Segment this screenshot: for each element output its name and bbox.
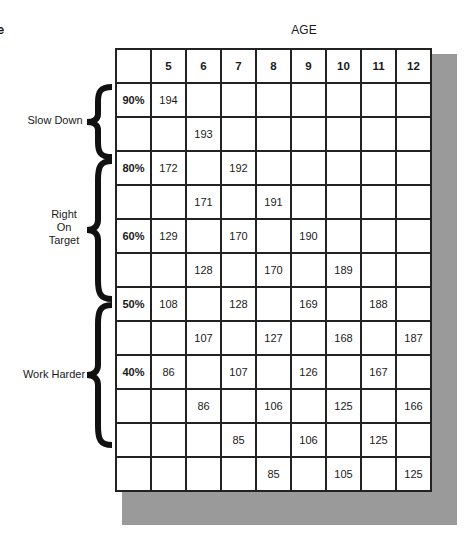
age-header-cell: 11 xyxy=(361,49,396,83)
score-cell xyxy=(396,151,431,185)
score-cell: 166 xyxy=(396,389,431,423)
score-cell xyxy=(326,185,361,219)
score-cell: 126 xyxy=(291,355,326,389)
table-row: 80%172192 xyxy=(116,151,431,185)
table-row: 85106125 xyxy=(116,423,431,457)
right-on-target-label: Right On Target xyxy=(44,208,84,247)
score-cell xyxy=(186,457,221,491)
percentile-cell xyxy=(116,389,151,423)
percentile-cell: 40% xyxy=(116,355,151,389)
score-cell xyxy=(361,151,396,185)
score-cell xyxy=(361,457,396,491)
right-on-target-line: Right xyxy=(44,208,84,221)
percentile-cell xyxy=(116,253,151,287)
table-row: 90%194 xyxy=(116,83,431,117)
score-cell: 170 xyxy=(221,219,256,253)
slow-down-brace-icon xyxy=(84,84,116,160)
score-cell xyxy=(151,389,186,423)
score-cell xyxy=(221,83,256,117)
score-cell xyxy=(291,117,326,151)
score-cell xyxy=(186,151,221,185)
score-cell: 171 xyxy=(186,185,221,219)
cropped-caption-fragment: e xyxy=(0,22,4,37)
score-cell: 106 xyxy=(256,389,291,423)
score-cell xyxy=(326,355,361,389)
score-cell: 125 xyxy=(396,457,431,491)
score-cell: 128 xyxy=(186,253,221,287)
score-cell: 167 xyxy=(361,355,396,389)
score-cell xyxy=(151,321,186,355)
header-row: 5 6 7 8 9 10 11 12 xyxy=(116,49,431,83)
age-header-cell: 6 xyxy=(186,49,221,83)
age-axis-label: AGE xyxy=(269,23,339,37)
score-cell xyxy=(221,321,256,355)
score-cell xyxy=(151,457,186,491)
score-cell: 172 xyxy=(151,151,186,185)
score-cell xyxy=(326,83,361,117)
score-cell xyxy=(396,117,431,151)
age-header-cell: 9 xyxy=(291,49,326,83)
score-cell xyxy=(256,83,291,117)
score-cell xyxy=(291,321,326,355)
score-cell xyxy=(256,287,291,321)
table-row: 107127168187 xyxy=(116,321,431,355)
score-cell: 125 xyxy=(326,389,361,423)
age-header-cell: 7 xyxy=(221,49,256,83)
score-cell: 194 xyxy=(151,83,186,117)
table-row: 50%108128169188 xyxy=(116,287,431,321)
score-cell xyxy=(291,389,326,423)
header-corner-cell xyxy=(116,49,151,83)
age-header-cell: 8 xyxy=(256,49,291,83)
score-cell xyxy=(151,185,186,219)
table-row: 60%129170190 xyxy=(116,219,431,253)
score-cell: 106 xyxy=(291,423,326,457)
table-row: 193 xyxy=(116,117,431,151)
score-cell: 190 xyxy=(291,219,326,253)
score-cell xyxy=(396,423,431,457)
score-cell xyxy=(221,185,256,219)
score-cell xyxy=(291,151,326,185)
percentile-table: 5 6 7 8 9 10 11 12 90%19419380%172192171… xyxy=(115,48,432,492)
score-cell xyxy=(361,321,396,355)
score-cell xyxy=(361,117,396,151)
score-cell xyxy=(361,219,396,253)
score-cell xyxy=(326,287,361,321)
score-cell xyxy=(256,355,291,389)
score-cell: 108 xyxy=(151,287,186,321)
table-row: 128170189 xyxy=(116,253,431,287)
score-cell xyxy=(186,423,221,457)
score-cell xyxy=(361,389,396,423)
table-row: 86106125166 xyxy=(116,389,431,423)
score-cell: 192 xyxy=(221,151,256,185)
work-harder-brace-icon xyxy=(84,302,116,448)
right-on-target-line: On xyxy=(44,221,84,234)
percentile-cell: 60% xyxy=(116,219,151,253)
score-cell: 169 xyxy=(291,287,326,321)
score-cell: 191 xyxy=(256,185,291,219)
score-cell xyxy=(151,423,186,457)
slow-down-label: Slow Down xyxy=(22,114,88,127)
score-cell xyxy=(221,253,256,287)
score-cell xyxy=(186,355,221,389)
score-cell: 128 xyxy=(221,287,256,321)
score-cell xyxy=(326,151,361,185)
table-row: 171191 xyxy=(116,185,431,219)
score-cell xyxy=(151,253,186,287)
score-cell xyxy=(361,253,396,287)
score-cell: 168 xyxy=(326,321,361,355)
score-cell xyxy=(396,185,431,219)
age-header-cell: 5 xyxy=(151,49,186,83)
score-cell: 187 xyxy=(396,321,431,355)
score-cell: 86 xyxy=(151,355,186,389)
score-cell xyxy=(151,117,186,151)
percentile-cell: 80% xyxy=(116,151,151,185)
score-cell: 189 xyxy=(326,253,361,287)
score-cell xyxy=(186,83,221,117)
score-cell xyxy=(326,117,361,151)
age-header-cell: 10 xyxy=(326,49,361,83)
score-cell xyxy=(326,423,361,457)
right-on-target-line: Target xyxy=(44,234,84,247)
age-header-cell: 12 xyxy=(396,49,431,83)
score-cell: 125 xyxy=(361,423,396,457)
score-cell xyxy=(396,287,431,321)
